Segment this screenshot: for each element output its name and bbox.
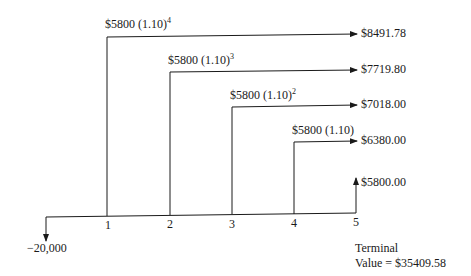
compound-label-period-4: $5800 (1.10) [292,124,354,137]
future-value-period-2: $7719.80 [361,63,406,76]
compound-label-period-2: $5800 (1.10)3 [168,54,234,67]
flow-arrow-period-4 [294,141,357,214]
compound-label-period-1: $5800 (1.10)4 [105,18,171,31]
period-label-2: 2 [167,218,173,231]
initial-outflow-label: −20,000 [27,242,67,255]
future-value-period-3: $7018.00 [361,98,406,111]
period-label-4: 4 [291,217,297,230]
compound-base: $5800 (1.10) [168,53,230,67]
compound-exponent: 2 [292,87,296,96]
period-label-1: 1 [105,219,111,232]
compound-base: $5800 (1.10) [230,88,292,102]
future-value-period-4: $6380.00 [361,134,406,147]
compound-label-period-3: $5800 (1.10)2 [230,89,296,102]
compound-exponent: 4 [167,16,171,25]
future-value-period-5: $5800.00 [361,176,406,189]
compound-base: $5800 (1.10) [105,17,167,31]
time-axis [46,213,356,217]
future-value-period-1: $8491.78 [361,27,406,40]
period-label-5: 5 [353,216,359,229]
compound-base: $5800 (1.10) [292,123,354,137]
terminal-value-line1: Terminal [355,242,398,255]
compound-exponent: 3 [230,52,234,61]
period-label-3: 3 [229,218,235,231]
terminal-value-line2: Value = $35409.58 [355,257,446,270]
